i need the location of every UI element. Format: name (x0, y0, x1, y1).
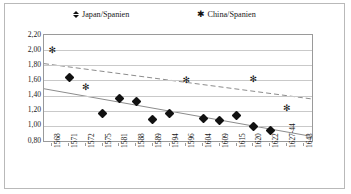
gridline (44, 111, 312, 112)
data-point: ✻ (182, 75, 190, 85)
y-axis-tick-label: 1,20 (11, 106, 41, 114)
star-icon: ✱ (197, 10, 205, 19)
x-axis-tick-label: 1604 (205, 133, 212, 148)
x-axis-tick (152, 143, 153, 146)
chart-frame: Japan/Spanien ✱ China/Spanien 2,202,001,… (4, 3, 345, 189)
x-axis-tick-label: 1572 (88, 133, 95, 148)
gridline (44, 96, 312, 97)
y-axis-tick-label: 2,00 (11, 46, 41, 54)
plot-area: ✻✻✻✻✻ (43, 34, 313, 142)
x-axis-tick-label: 1622 (272, 133, 279, 148)
x-axis-tick-label: 1568 (54, 133, 61, 148)
y-axis-tick-label: 2,20 (11, 31, 41, 39)
x-axis-tick (135, 143, 136, 146)
x-axis-tick-label: 1627-44 (289, 123, 296, 148)
x-axis-tick (269, 143, 270, 146)
y-axis-tick-label: 1,60 (11, 76, 41, 84)
data-point: ✻ (48, 45, 56, 55)
gridline (44, 65, 312, 66)
x-axis-tick (219, 143, 220, 146)
legend-item-china: ✱ China/Spanien (197, 10, 256, 19)
data-point: ✻ (249, 74, 257, 84)
y-axis-tick-label: 0,80 (11, 137, 41, 145)
x-axis-labels: 1568157115721575158115881589159415961604… (43, 143, 313, 194)
chart-legend: Japan/Spanien ✱ China/Spanien (5, 10, 346, 26)
y-axis-tick-label: 1,40 (11, 91, 41, 99)
x-axis-tick (303, 143, 304, 146)
x-axis-tick (286, 143, 287, 146)
x-axis-tick (236, 143, 237, 146)
y-axis-tick-label: 1,80 (11, 61, 41, 69)
x-axis-tick (85, 143, 86, 146)
x-axis-tick-label: 1620 (255, 133, 262, 148)
x-axis-tick-label: 1596 (188, 133, 195, 148)
y-axis-labels: 2,202,001,801,601,401,201,000,80 (10, 34, 41, 142)
data-point: ✻ (82, 82, 90, 92)
legend-label-china: China/Spanien (208, 10, 256, 19)
x-axis-tick (102, 143, 103, 146)
legend-label-japan: Japan/Spanien (82, 10, 129, 19)
x-axis-tick (202, 143, 203, 146)
x-axis-tick (169, 143, 170, 146)
legend-item-japan: Japan/Spanien (73, 10, 129, 19)
gridline (44, 50, 312, 51)
x-axis-tick-label: 1589 (155, 133, 162, 148)
data-point: ✻ (283, 103, 291, 113)
x-axis-tick-label: 1615 (239, 133, 246, 148)
x-axis-tick-label: 1594 (172, 133, 179, 148)
x-axis-tick-label: 1643 (306, 133, 313, 148)
diamond-icon (73, 8, 79, 14)
x-axis-tick (68, 143, 69, 146)
x-axis-tick-label: 1575 (105, 133, 112, 148)
y-axis-tick-label: 1,00 (11, 121, 41, 129)
x-axis-tick-label: 1581 (121, 133, 128, 148)
x-axis-tick-label: 1588 (138, 133, 145, 148)
x-axis-tick-label: 1571 (71, 133, 78, 148)
x-axis-tick-label: 1609 (222, 133, 229, 148)
